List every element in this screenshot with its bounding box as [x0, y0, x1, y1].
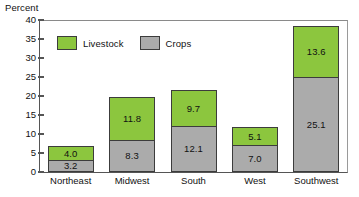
bar-segment-livestock[interactable]: 5.1	[232, 127, 278, 146]
x-axis-label-northeast: Northeast	[40, 175, 101, 186]
x-axis-label-midwest: Midwest	[101, 175, 162, 186]
bar-segment-crops[interactable]: 7.0	[232, 145, 278, 172]
bar-value-label: 4.0	[64, 149, 78, 159]
bar-segment-crops[interactable]: 3.2	[48, 160, 94, 172]
bar-segment-crops[interactable]: 12.1	[171, 126, 217, 172]
bar-value-label: 7.0	[248, 154, 262, 164]
y-axis-title: Percent	[5, 2, 38, 13]
bar-value-label: 8.3	[125, 151, 139, 161]
y-axis-tick-label: 30	[25, 52, 36, 63]
bar-segment-crops[interactable]: 25.1	[293, 77, 339, 172]
bar-segment-crops[interactable]: 8.3	[109, 140, 155, 172]
y-axis-tick-label: 25	[25, 71, 36, 82]
y-axis-tick-label: 20	[25, 90, 36, 101]
bar-segment-livestock[interactable]: 9.7	[171, 90, 217, 127]
chart-legend: LivestockCrops	[57, 36, 191, 50]
legend-item-livestock[interactable]: Livestock	[57, 36, 124, 50]
bar-value-label: 3.2	[64, 161, 78, 171]
bar-group[interactable]: 4.03.2	[48, 146, 94, 172]
bar-group[interactable]: 5.17.0	[232, 127, 278, 172]
legend-label: Livestock	[83, 38, 124, 49]
bar-value-label: 25.1	[307, 120, 326, 130]
bar-group[interactable]: 11.88.3	[109, 97, 155, 172]
bar-segment-livestock[interactable]: 11.8	[109, 97, 155, 142]
x-axis-category-labels: NortheastMidwestSouthWestSouthwest	[40, 175, 347, 195]
legend-item-crops[interactable]: Crops	[140, 36, 192, 50]
y-axis-tick-label: 35	[25, 33, 36, 44]
stacked-bar-chart: Percent 0510152025303540 4.03.211.88.39.…	[0, 0, 359, 197]
bar-segment-livestock[interactable]: 13.6	[293, 26, 339, 78]
bar-value-label: 9.7	[187, 104, 201, 114]
x-axis-label-southwest: Southwest	[286, 175, 347, 186]
legend-swatch-livestock	[57, 36, 77, 50]
y-axis-tick-label: 15	[25, 109, 36, 120]
y-axis-tick-label: 0	[31, 166, 36, 177]
y-axis-tick-label: 10	[25, 128, 36, 139]
bar-value-label: 13.6	[307, 47, 326, 57]
bar-group[interactable]: 9.712.1	[171, 90, 217, 172]
y-axis-tick-label: 5	[31, 147, 36, 158]
bar-value-label: 11.8	[123, 114, 141, 124]
bar-value-label: 12.1	[184, 144, 203, 154]
x-axis-label-west: West	[224, 175, 285, 186]
legend-swatch-crops	[140, 36, 160, 50]
bar-segment-livestock[interactable]: 4.0	[48, 146, 94, 161]
x-axis-label-south: South	[163, 175, 224, 186]
y-axis-tick-label: 40	[25, 14, 36, 25]
bar-value-label: 5.1	[248, 132, 262, 142]
bar-group[interactable]: 13.625.1	[293, 26, 339, 172]
legend-label: Crops	[166, 38, 192, 49]
